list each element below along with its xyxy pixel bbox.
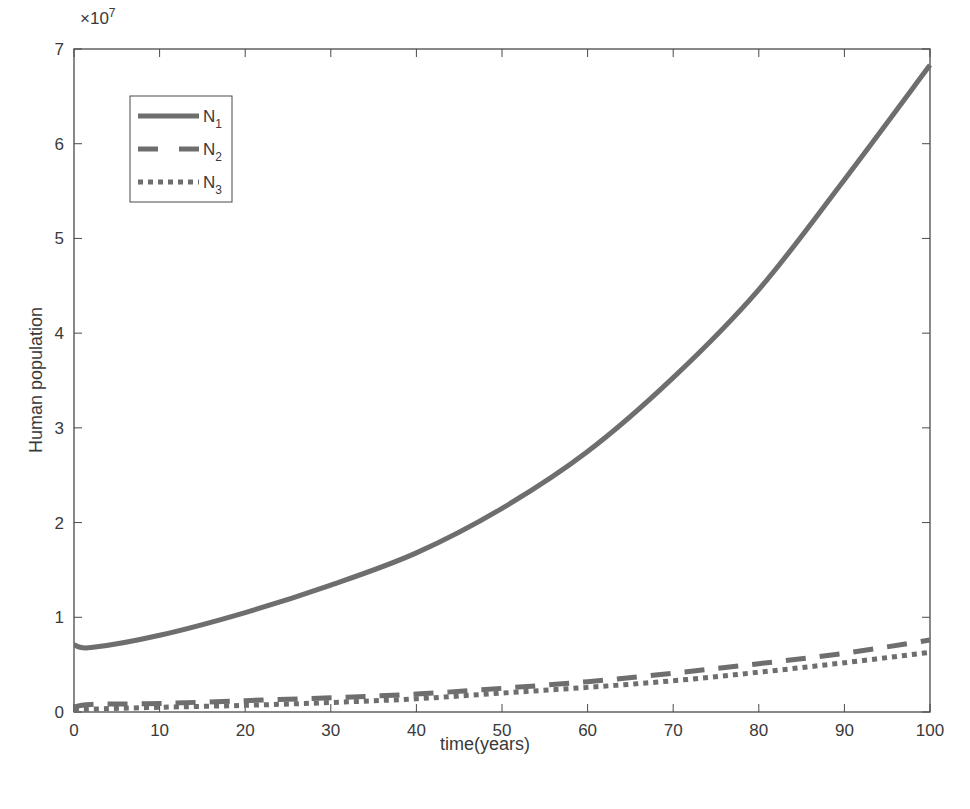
x-tick-label: 20 (236, 721, 255, 740)
x-tick-label: 100 (916, 721, 944, 740)
series-line-n2 (74, 640, 930, 707)
x-tick-label: 40 (407, 721, 426, 740)
y-tick-label: 0 (55, 703, 64, 722)
y-exponent-power: 7 (109, 6, 116, 20)
y-tick-label: 4 (55, 324, 64, 343)
y-tick-label: 2 (55, 514, 64, 533)
y-tick-label: 5 (55, 229, 64, 248)
x-tick-label: 70 (664, 721, 683, 740)
y-tick-label: 1 (55, 608, 64, 627)
x-tick-label: 80 (749, 721, 768, 740)
x-tick-label: 30 (321, 721, 340, 740)
x-tick-label: 90 (835, 721, 854, 740)
y-tick-label: 7 (55, 40, 64, 59)
y-tick-label: 3 (55, 419, 64, 438)
legend: N1N2N3 (130, 96, 232, 202)
line-chart: 010203040506070809010001234567 N1N2N3 ×1… (0, 0, 970, 809)
x-tick-label: 0 (69, 721, 78, 740)
x-axis-label: time(years) (440, 734, 530, 754)
y-axis-label: Human population (26, 307, 46, 453)
x-tick-label: 10 (150, 721, 169, 740)
y-tick-label: 6 (55, 135, 64, 154)
y-exponent-base: ×10 (80, 9, 109, 28)
x-tick-label: 60 (578, 721, 597, 740)
y-exponent-label: ×107 (80, 6, 116, 28)
